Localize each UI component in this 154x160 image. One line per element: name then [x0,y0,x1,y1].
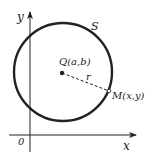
origin-label: 0 [18,136,25,147]
radius-label: r [86,71,92,82]
point-label: M(x,y) [111,90,145,101]
circle-label: S [91,20,99,33]
center-label: Q(a,b) [59,56,91,67]
x-axis-label: x [123,139,130,153]
circle-diagram: y x 0 S Q(a,b) r M(x,y) [0,0,154,160]
point-m [107,89,111,93]
y-axis-label: y [16,10,24,24]
